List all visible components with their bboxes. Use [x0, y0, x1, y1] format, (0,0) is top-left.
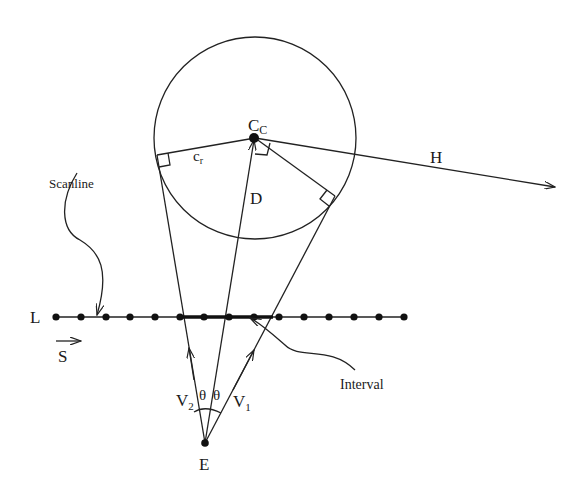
distance-label: D — [250, 189, 262, 208]
line-label: L — [30, 308, 40, 327]
radius-left — [157, 138, 255, 155]
horizon-label: H — [430, 148, 442, 167]
right-angle-left-icon — [159, 153, 170, 167]
interval-callout — [250, 318, 355, 370]
v1-label: V1 — [233, 392, 251, 413]
theta-right-label: θ — [213, 387, 220, 403]
v2-arrow — [189, 348, 194, 380]
right-angle-right-icon — [320, 190, 329, 206]
scanline-pixels — [52, 313, 407, 320]
v1-arrow — [233, 350, 254, 390]
scan-direction-label: S — [58, 347, 67, 366]
interval-label: Interval — [340, 377, 384, 392]
horizon-line — [255, 138, 555, 187]
eye-label: E — [199, 455, 209, 474]
scanline-label: Scanline — [49, 176, 94, 191]
eye-point — [201, 439, 209, 447]
center-label: CC — [248, 116, 267, 137]
right-angle-center-icon — [255, 143, 270, 155]
sphere-projection-diagram: CC cr D H Scanline L S Interval V2 V1 θ … — [0, 0, 579, 485]
v2-label: V2 — [176, 391, 194, 412]
theta-arc — [194, 409, 221, 413]
radius-right — [255, 138, 335, 196]
theta-left-label: θ — [199, 387, 206, 403]
scanline-callout — [65, 173, 103, 315]
radius-label: cr — [193, 148, 204, 166]
